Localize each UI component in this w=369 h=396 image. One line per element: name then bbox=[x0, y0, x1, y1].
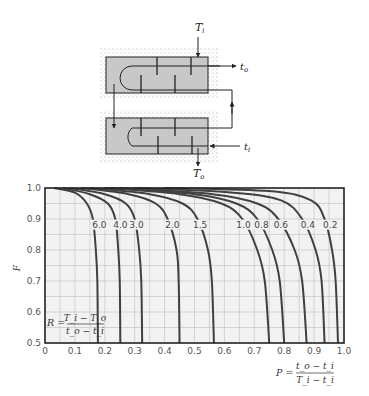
x-axis-label: P = t_o − t_i T_i − t_i bbox=[275, 361, 334, 386]
x-tick-label: 0.8 bbox=[277, 346, 292, 356]
x-tick-label: 0.9 bbox=[307, 346, 322, 356]
curve-label: 1.0 bbox=[236, 220, 251, 230]
curve-label: 6.0 bbox=[92, 220, 107, 230]
y-axis-ticks: 0.50.60.70.80.91.0 bbox=[27, 183, 42, 348]
svg-text:R =: R = bbox=[46, 317, 65, 328]
tube-crossover-line bbox=[226, 90, 232, 128]
x-tick-label: 0.3 bbox=[128, 346, 142, 356]
x-tick-label: 0.6 bbox=[217, 346, 232, 356]
y-tick-label: 0.5 bbox=[27, 338, 41, 348]
x-tick-label: 0.5 bbox=[187, 346, 201, 356]
curve-label: 0.4 bbox=[301, 220, 316, 230]
lower-shell bbox=[100, 111, 240, 166]
shell-outlet-label: To bbox=[193, 167, 205, 180]
svg-text:t_o − t_i: t_o − t_i bbox=[296, 361, 334, 372]
x-tick-label: 0.7 bbox=[247, 346, 261, 356]
y-tick-label: 0.9 bbox=[27, 214, 42, 224]
svg-text:T_i − T_o: T_i − T_o bbox=[64, 313, 107, 324]
curve-label: 0.2 bbox=[323, 220, 337, 230]
tube-inlet-label: ti bbox=[244, 141, 250, 154]
y-axis-label: F bbox=[12, 264, 22, 272]
x-axis-ticks: 00.10.20.30.40.50.60.70.80.91.0 bbox=[42, 346, 351, 356]
tube-outlet-label: to bbox=[240, 61, 248, 74]
x-tick-label: 0.1 bbox=[68, 346, 82, 356]
svg-text:t_o − t_i: t_o − t_i bbox=[66, 326, 104, 337]
curve-label: 1.5 bbox=[193, 220, 207, 230]
svg-text:T_i − t_i: T_i − t_i bbox=[296, 375, 334, 386]
x-tick-label: 0.4 bbox=[157, 346, 172, 356]
x-tick-label: 0 bbox=[42, 346, 48, 356]
y-tick-label: 1.0 bbox=[27, 183, 42, 193]
curve-label: 4.0 bbox=[113, 220, 128, 230]
y-tick-label: 0.7 bbox=[27, 276, 41, 286]
correction-factor-chart: 6.04.03.02.01.51.00.80.60.40.2 00.10.20.… bbox=[0, 180, 369, 396]
svg-text:P =: P = bbox=[275, 367, 293, 378]
upper-shell bbox=[100, 37, 236, 98]
curve-label: 0.6 bbox=[274, 220, 289, 230]
shell-inlet-label: Ti bbox=[195, 21, 205, 35]
y-tick-label: 0.8 bbox=[27, 245, 42, 255]
curve-label: 2.0 bbox=[165, 220, 180, 230]
curve-label: 0.8 bbox=[254, 220, 269, 230]
y-tick-label: 0.6 bbox=[27, 307, 42, 317]
x-tick-label: 0.2 bbox=[98, 346, 112, 356]
x-tick-label: 1.0 bbox=[337, 346, 352, 356]
curve-label: 3.0 bbox=[129, 220, 144, 230]
heat-exchanger-diagram: Ti to ti To bbox=[0, 0, 369, 180]
